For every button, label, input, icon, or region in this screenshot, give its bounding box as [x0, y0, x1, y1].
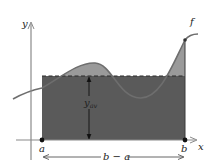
point-a	[40, 138, 45, 143]
point-b	[183, 138, 188, 143]
b-label: b	[181, 143, 187, 154]
point-f-b	[183, 38, 187, 42]
width-label: b − a	[103, 151, 130, 162]
function-label: f	[189, 16, 196, 27]
y-axis-label: y	[21, 18, 28, 29]
average-rectangle	[42, 76, 185, 140]
x-axis-label: x	[198, 141, 204, 152]
average-value-diagram: y x f a b yav b − a	[0, 0, 216, 168]
a-label: a	[39, 143, 45, 154]
